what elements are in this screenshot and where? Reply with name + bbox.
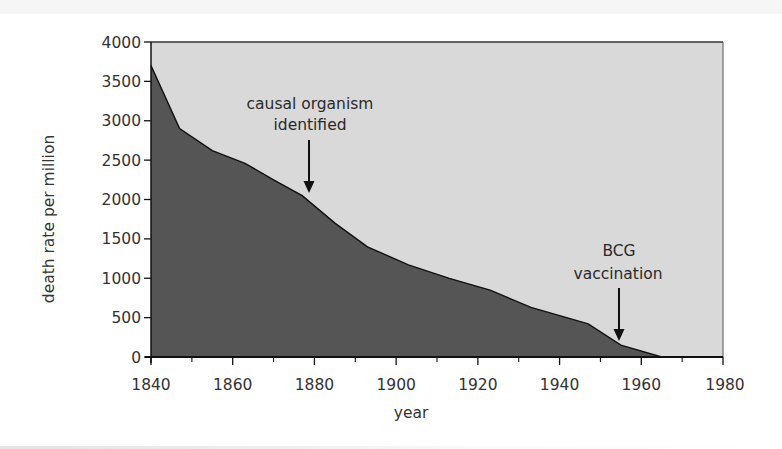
y-tick-label: 2000 — [102, 191, 141, 209]
y-tick-label: 3500 — [102, 73, 141, 91]
x-tick-label: 1840 — [131, 376, 170, 394]
annotation-bcg-line2: vaccination — [573, 265, 662, 283]
y-axis-ticks: 05001000150020002500300035004000 — [102, 34, 151, 367]
x-tick-label: 1900 — [376, 376, 415, 394]
annotation-causal-organism-line2: identified — [273, 116, 346, 134]
x-tick-label: 1880 — [295, 376, 334, 394]
x-tick-label: 1980 — [705, 376, 744, 394]
x-tick-label: 1860 — [213, 376, 252, 394]
x-tick-label: 1940 — [540, 376, 579, 394]
y-tick-label: 1500 — [102, 230, 141, 248]
chart: 05001000150020002500300035004000 1840186… — [0, 0, 782, 449]
x-axis-ticks: 18401860188019001920194019601980 — [131, 357, 744, 394]
y-axis-title: death rate per million — [40, 135, 58, 303]
annotation-bcg-line1: BCG — [602, 242, 635, 260]
y-tick-label: 3000 — [102, 112, 141, 130]
y-tick-label: 500 — [111, 309, 141, 327]
x-tick-label: 1920 — [458, 376, 497, 394]
y-tick-label: 0 — [131, 349, 141, 367]
y-tick-label: 1000 — [102, 270, 141, 288]
annotation-causal-organism-line1: causal organism — [247, 95, 374, 113]
x-axis-title: year — [394, 404, 429, 422]
x-tick-label: 1960 — [622, 376, 661, 394]
y-tick-label: 4000 — [102, 34, 141, 52]
y-tick-label: 2500 — [102, 152, 141, 170]
